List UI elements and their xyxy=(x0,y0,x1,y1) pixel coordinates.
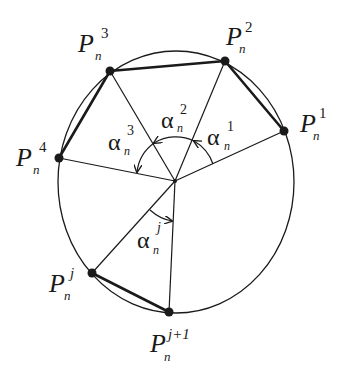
label-alpha3-base: α xyxy=(108,129,121,155)
label-p3: P 3 n xyxy=(77,25,109,63)
label-alpha3-sub: n xyxy=(124,144,130,158)
chord-pj-pj1 xyxy=(92,273,169,312)
label-pj-sub: n xyxy=(64,288,71,303)
label-p4-base: P xyxy=(15,143,32,172)
vertex-pj xyxy=(88,269,97,278)
center-point xyxy=(173,179,177,183)
inscribed-polygon-diagram: P 3 n P 2 n P 1 n P 4 n P j n P j+1 n α … xyxy=(0,0,341,373)
ray-p4 xyxy=(59,158,175,181)
label-p3-sub: n xyxy=(95,48,102,63)
arc-alphaj xyxy=(150,210,172,221)
label-p4-sup: 4 xyxy=(39,139,47,155)
ray-pj1 xyxy=(169,181,175,312)
label-alphaj-sub: n xyxy=(153,243,159,257)
label-p2-sup: 2 xyxy=(245,19,253,35)
label-alpha2-base: α xyxy=(161,107,174,133)
label-p3-sup: 3 xyxy=(101,25,109,41)
label-alpha3-sup: 3 xyxy=(127,123,134,138)
label-alpha3: α 3 n xyxy=(108,123,134,158)
label-pj1-sup: j+1 xyxy=(166,326,190,342)
vertex-p3 xyxy=(106,67,115,76)
arc-alpha2 xyxy=(154,137,194,143)
label-p1-sub: n xyxy=(313,128,320,143)
chord-p3-p4 xyxy=(59,71,110,158)
label-alpha1-sup: 1 xyxy=(227,119,234,134)
ray-pj xyxy=(92,181,175,273)
label-alphaj: α j n xyxy=(137,220,161,257)
label-alpha1-sub: n xyxy=(224,139,230,153)
label-p4-sub: n xyxy=(33,162,40,177)
label-p2-sub: n xyxy=(239,41,246,56)
label-pj1: P j+1 n xyxy=(149,326,190,364)
vertex-p4 xyxy=(55,154,64,163)
vertex-p1 xyxy=(280,127,289,136)
label-alphaj-base: α xyxy=(137,227,150,253)
label-pj-base: P xyxy=(48,269,65,298)
label-alpha1: α 1 n xyxy=(207,119,234,153)
label-p1-sup: 1 xyxy=(319,105,327,121)
label-pj-sup: j xyxy=(68,265,74,281)
label-p3-base: P xyxy=(77,29,94,58)
label-alphaj-sup: j xyxy=(155,220,161,235)
label-alpha2: α 2 n xyxy=(161,102,187,135)
angle-arcs xyxy=(137,137,213,221)
label-pj1-sub: n xyxy=(164,349,171,364)
label-p4: P 4 n xyxy=(15,139,47,177)
label-alpha2-sup: 2 xyxy=(180,102,187,117)
label-alpha2-sub: n xyxy=(177,121,183,135)
vertex-pj1 xyxy=(165,308,174,317)
label-p2: P 2 n xyxy=(225,19,253,56)
label-pj: P j n xyxy=(48,265,74,303)
label-p1: P 1 n xyxy=(299,105,327,143)
label-alpha1-base: α xyxy=(207,124,220,150)
vertex-p2 xyxy=(221,57,230,66)
arc-alpha3 xyxy=(137,143,154,172)
